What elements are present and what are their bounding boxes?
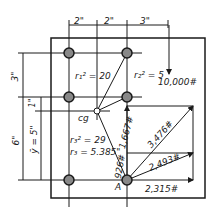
bolt	[122, 175, 132, 185]
cg-marker	[94, 108, 100, 114]
bolt	[64, 48, 74, 58]
label-r3sq: r₃² = 29	[70, 136, 106, 145]
dim-left-6: 6"	[12, 136, 21, 146]
dim-ybar: ȳ = 5"	[30, 125, 39, 153]
bolt-group-diagram	[0, 0, 219, 215]
dim-top-3: 3"	[140, 17, 150, 26]
label-cg: cg	[78, 114, 89, 123]
force-2315: 2,315#	[145, 185, 178, 194]
bolt	[64, 175, 74, 185]
label-r3: r₃ = 5.385"	[70, 148, 120, 157]
label-r1: r₁² = 20	[75, 72, 111, 81]
bolt	[122, 48, 132, 58]
dim-left-3: 3"	[11, 72, 20, 82]
bolt	[64, 92, 74, 102]
label-load: 10,000#	[158, 78, 197, 87]
bolt	[122, 92, 132, 102]
label-point-a: A	[115, 183, 121, 192]
dim-top-1: 2"	[74, 17, 84, 26]
dim-left-1: 1"	[29, 99, 37, 108]
dim-top-2: 2"	[104, 17, 114, 26]
